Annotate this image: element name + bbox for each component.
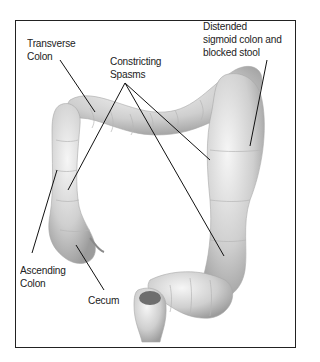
label-transverse-colon: Transverse Colon — [27, 37, 75, 63]
label-ascending-colon: Ascending Colon — [20, 264, 66, 290]
label-cecum: Cecum — [88, 294, 119, 307]
label-constricting-spasms: Constricting Spasms — [110, 55, 161, 81]
label-distended-sigmoid: Distended sigmoid colon and blocked stoo… — [203, 20, 282, 59]
rectum-opening — [139, 291, 161, 305]
